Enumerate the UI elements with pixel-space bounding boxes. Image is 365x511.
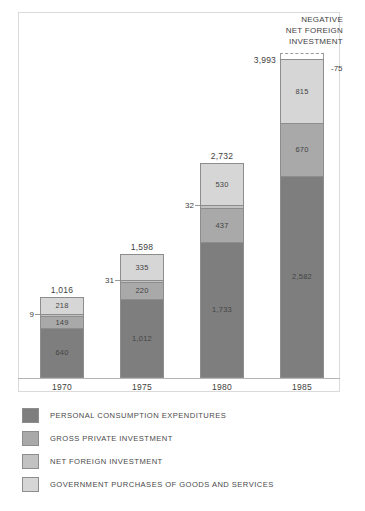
segment-gross-private-investment: 437 xyxy=(200,208,244,242)
negative-value-label: -75 xyxy=(331,64,343,73)
legend-label-net-foreign-investment: NET FOREIGN INVESTMENT xyxy=(50,457,163,466)
annotation-line-1: NEGATIVE xyxy=(257,14,343,25)
legend-swatch-government-purchases xyxy=(22,477,39,492)
bar-total-label-1975: 1,598 xyxy=(102,242,182,252)
bar-1975: 335312201,012 xyxy=(120,254,164,378)
net-foreign-investment-leader-1970 xyxy=(35,314,40,315)
annotation-line-3: INVESTMENT xyxy=(257,36,343,47)
negative-net-foreign-investment-annotation: NEGATIVE NET FOREIGN INVESTMENT xyxy=(257,14,343,47)
segment-government-purchases: 335 xyxy=(120,254,164,280)
segment-personal-consumption: 1,012 xyxy=(120,299,164,378)
segment-gross-private-investment: 220 xyxy=(120,282,164,299)
net-foreign-investment-leader-1980 xyxy=(195,205,200,206)
segment-value-label: 437 xyxy=(215,222,228,230)
legend-swatch-net-foreign-investment xyxy=(22,454,39,469)
x-axis-baseline xyxy=(18,378,340,379)
legend-label-government-purchases: GOVERNMENT PURCHASES OF GOODS AND SERVIC… xyxy=(50,480,274,489)
legend-label-gross-private-investment: GROSS PRIVATE INVESTMENT xyxy=(50,434,173,443)
segment-value-label: 670 xyxy=(295,146,308,154)
bar-1970: 2189149640 xyxy=(40,297,84,378)
segment-value-label: 218 xyxy=(55,302,68,310)
segment-personal-consumption: 640 xyxy=(40,328,84,378)
stacked-bar-chart: 21891496401,01691970335312201,0121,59831… xyxy=(0,0,365,511)
net-foreign-investment-label-1980: 32 xyxy=(164,201,194,210)
x-axis-label-1970: 1970 xyxy=(22,382,102,392)
legend-item-government-purchases: GOVERNMENT PURCHASES OF GOODS AND SERVIC… xyxy=(22,473,342,496)
legend-label-personal-consumption: PERSONAL CONSUMPTION EXPENDITURES xyxy=(50,411,226,420)
segment-value-label: 1,733 xyxy=(212,306,232,314)
segment-value-label: 640 xyxy=(55,349,68,357)
bar-1980: 530324371,733 xyxy=(200,163,244,378)
net-foreign-investment-leader-1975 xyxy=(115,280,120,281)
segment-government-purchases: 530 xyxy=(200,163,244,205)
segment-value-label: 220 xyxy=(135,287,148,295)
segment-gross-private-investment: 670 xyxy=(280,123,324,176)
segment-value-label: 149 xyxy=(55,319,68,327)
legend-item-net-foreign-investment: NET FOREIGN INVESTMENT xyxy=(22,450,342,473)
legend-item-personal-consumption: PERSONAL CONSUMPTION EXPENDITURES xyxy=(22,404,342,427)
segment-gross-private-investment: 149 xyxy=(40,316,84,328)
segment-personal-consumption: 1,733 xyxy=(200,242,244,378)
x-axis-label-1975: 1975 xyxy=(102,382,182,392)
segment-government-purchases: 815 xyxy=(280,59,324,123)
bar-total-label-1980: 2,732 xyxy=(182,151,262,161)
legend-swatch-gross-private-investment xyxy=(22,431,39,446)
chart-legend: PERSONAL CONSUMPTION EXPENDITURES GROSS … xyxy=(22,404,342,496)
net-foreign-investment-label-1975: 31 xyxy=(84,276,114,285)
bar-1985: 8156702,582 xyxy=(280,53,324,378)
x-axis-label-1985: 1985 xyxy=(262,382,342,392)
segment-value-label: 1,012 xyxy=(132,335,152,343)
bar-total-label-1970: 1,016 xyxy=(22,285,102,295)
legend-item-gross-private-investment: GROSS PRIVATE INVESTMENT xyxy=(22,427,342,450)
segment-value-label: 530 xyxy=(215,181,228,189)
bar-total-label-1985: 3,993 xyxy=(218,55,276,65)
x-axis-label-1980: 1980 xyxy=(182,382,262,392)
segment-personal-consumption: 2,582 xyxy=(280,176,324,378)
segment-value-label: 815 xyxy=(295,88,308,96)
segment-value-label: 2,582 xyxy=(292,273,312,281)
segment-value-label: 335 xyxy=(135,264,148,272)
net-foreign-investment-label-1970: 9 xyxy=(4,310,34,319)
segment-government-purchases: 218 xyxy=(40,297,84,314)
legend-swatch-personal-consumption xyxy=(22,408,39,423)
annotation-line-2: NET FOREIGN xyxy=(257,25,343,36)
